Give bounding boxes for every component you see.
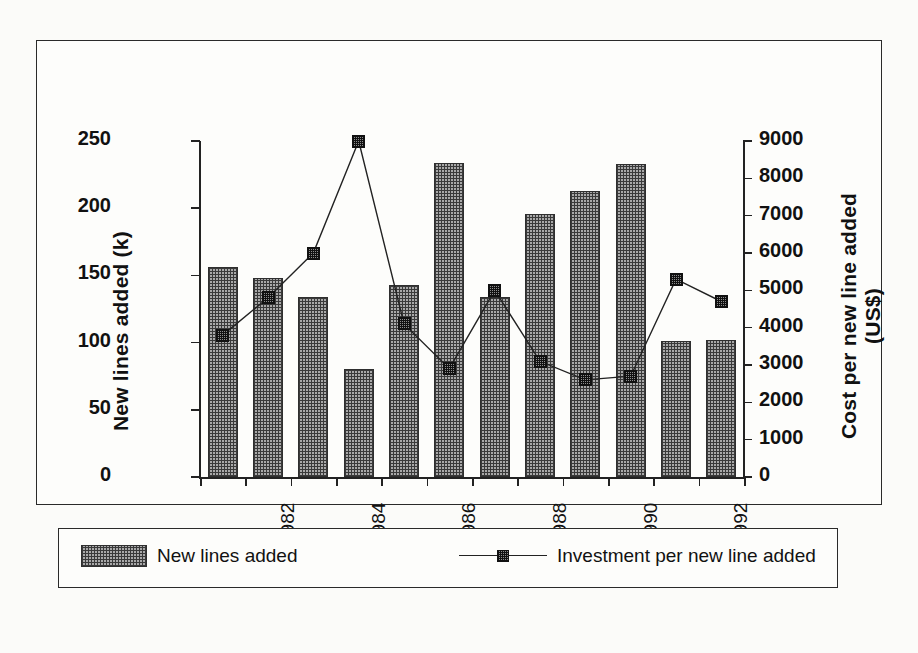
legend-box: New lines added Investment per new line … xyxy=(58,528,838,588)
y-axis-left-tick-label: 50 xyxy=(89,397,111,417)
legend-swatch-bar-icon xyxy=(81,545,147,567)
x-axis-tick xyxy=(699,477,701,486)
legend-swatch-line-icon xyxy=(459,549,547,563)
y-axis-right-tick-label: 0 xyxy=(759,464,770,484)
y-axis-left-tick-label: 150 xyxy=(78,262,111,282)
x-axis-tick xyxy=(472,477,474,486)
y-axis-right-tick-label: 9000 xyxy=(759,128,804,148)
line-marker xyxy=(352,135,365,148)
y-axis-right-tick xyxy=(743,178,752,180)
x-axis-tick xyxy=(653,477,655,486)
legend-label-new-lines-added: New lines added xyxy=(157,545,297,567)
y-axis-right-tick-label: 4000 xyxy=(759,315,804,335)
y-axis-left-tick xyxy=(191,207,200,209)
x-axis-tick xyxy=(563,477,565,486)
y-axis-left-tick-label: 0 xyxy=(100,464,111,484)
line-marker xyxy=(715,295,728,308)
plot-area xyxy=(200,141,744,477)
x-axis-tick xyxy=(336,477,338,486)
y-axis-right-tick xyxy=(743,140,752,142)
y-axis-left-tick xyxy=(191,476,200,478)
y-axis-right-tick-label: 5000 xyxy=(759,277,804,297)
x-axis-tick xyxy=(517,477,519,486)
y-axis-right-tick-label: 6000 xyxy=(759,240,804,260)
legend-label-investment-per-line: Investment per new line added xyxy=(557,545,816,567)
y-axis-right-tick xyxy=(743,290,752,292)
y-axis-left-tick xyxy=(191,140,200,142)
y-axis-left-tick-label: 100 xyxy=(78,330,111,350)
legend-entry-investment-per-line: Investment per new line added xyxy=(459,545,816,567)
x-axis-tick xyxy=(744,477,746,486)
legend-marker-icon xyxy=(497,550,509,562)
line-marker xyxy=(488,284,501,297)
y-axis-left-tick-label: 200 xyxy=(78,195,111,215)
y-axis-right-tick-label: 8000 xyxy=(759,165,804,185)
line-marker xyxy=(534,355,547,368)
figure-frame: New lines added (k) Cost per new line ad… xyxy=(36,40,882,505)
y-axis-right-tick-label: 1000 xyxy=(759,427,804,447)
y-axis-right-tick xyxy=(743,252,752,254)
y-axis-left-tick xyxy=(191,409,200,411)
line-marker xyxy=(216,329,229,342)
line-series-path xyxy=(200,141,744,477)
line-marker xyxy=(398,317,411,330)
y-axis-right-tick xyxy=(743,327,752,329)
x-axis-tick xyxy=(608,477,610,486)
y-axis-right-tick-label: 7000 xyxy=(759,203,804,223)
y-axis-left-tick xyxy=(191,342,200,344)
line-marker xyxy=(262,291,275,304)
line-marker xyxy=(443,362,456,375)
y-axis-right-tick-label: 2000 xyxy=(759,389,804,409)
y-axis-right-tick xyxy=(743,215,752,217)
y-axis-left-tick xyxy=(191,275,200,277)
y-axis-right-tick xyxy=(743,364,752,366)
line-marker xyxy=(624,370,637,383)
line-marker xyxy=(670,273,683,286)
x-axis-tick xyxy=(200,477,202,486)
line-marker xyxy=(307,247,320,260)
y-axis-right-title: Cost per new line added (US$) xyxy=(837,191,885,441)
y-axis-right-tick xyxy=(743,439,752,441)
y-axis-left-title: New lines added (k) xyxy=(109,231,133,431)
y-axis-right-tick xyxy=(743,402,752,404)
x-axis-tick xyxy=(245,477,247,486)
line-marker xyxy=(579,373,592,386)
x-axis-tick xyxy=(381,477,383,486)
y-axis-left-tick-label: 250 xyxy=(78,128,111,148)
legend-entry-new-lines-added: New lines added xyxy=(81,545,297,567)
x-axis-tick xyxy=(427,477,429,486)
x-axis-tick xyxy=(291,477,293,486)
y-axis-right-tick-label: 3000 xyxy=(759,352,804,372)
